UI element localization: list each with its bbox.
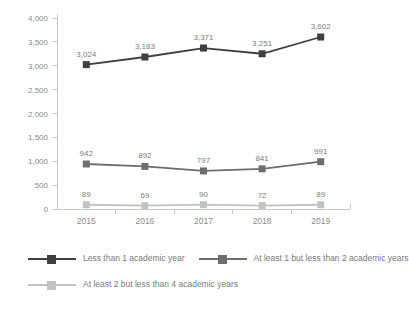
data-point-label: 797 bbox=[197, 156, 211, 165]
chart-plot-area: 05001,0001,5002,0002,5003,0003,5004,0002… bbox=[0, 0, 394, 246]
data-point-label: 89 bbox=[316, 190, 325, 199]
data-point-marker[interactable] bbox=[317, 158, 324, 165]
data-point-label: 3,183 bbox=[135, 42, 156, 51]
y-axis-tick-label: 0 bbox=[44, 205, 49, 214]
x-axis-tick-label: 2016 bbox=[135, 216, 154, 226]
data-point-marker[interactable] bbox=[200, 167, 207, 174]
data-point-label: 90 bbox=[199, 190, 208, 199]
data-point-marker[interactable] bbox=[200, 45, 207, 52]
y-axis-tick-label: 500 bbox=[35, 181, 49, 190]
data-point-marker[interactable] bbox=[259, 202, 266, 209]
data-point-label: 72 bbox=[258, 191, 267, 200]
data-point-marker[interactable] bbox=[141, 202, 148, 209]
x-axis-tick-label: 2018 bbox=[253, 216, 272, 226]
legend-label-series-1: Less than 1 academic year bbox=[83, 254, 185, 263]
data-point-marker[interactable] bbox=[141, 54, 148, 61]
y-axis-tick-label: 3,500 bbox=[28, 38, 49, 47]
y-axis-tick-label: 2,000 bbox=[28, 110, 49, 119]
data-point-label: 892 bbox=[138, 151, 152, 160]
data-point-marker[interactable] bbox=[317, 201, 324, 208]
data-point-label: 3,602 bbox=[311, 22, 332, 31]
data-point-marker[interactable] bbox=[317, 34, 324, 41]
series-3: 8969907289 bbox=[82, 190, 326, 210]
data-point-label: 942 bbox=[80, 149, 94, 158]
data-point-label: 3,371 bbox=[193, 33, 214, 42]
legend-item-series-3[interactable]: At least 2 but less than 4 academic year… bbox=[28, 279, 238, 291]
y-axis-tick-label: 3,000 bbox=[28, 62, 49, 71]
chart-legend: Less than 1 academic year At least 1 but… bbox=[0, 246, 394, 309]
legend-item-series-2[interactable]: At least 1 but less than 2 academic year… bbox=[199, 253, 409, 265]
data-point-marker[interactable] bbox=[83, 61, 90, 68]
x-axis-tick-label: 2019 bbox=[311, 216, 330, 226]
data-point-marker[interactable] bbox=[259, 50, 266, 57]
legend-swatch-icon-series-1 bbox=[28, 253, 76, 265]
data-point-marker[interactable] bbox=[200, 201, 207, 208]
data-point-label: 991 bbox=[314, 147, 328, 156]
data-point-label: 841 bbox=[255, 154, 269, 163]
legend-row-2: At least 2 but less than 4 academic year… bbox=[0, 272, 394, 298]
legend-marker-series-1 bbox=[47, 255, 56, 264]
x-axis-tick-label: 2015 bbox=[77, 216, 96, 226]
legend-swatch-icon-series-3 bbox=[28, 279, 76, 291]
data-point-marker[interactable] bbox=[259, 165, 266, 172]
data-point-label: 3,251 bbox=[252, 39, 273, 48]
y-axis-tick-label: 2,500 bbox=[28, 86, 49, 95]
legend-label-series-2: At least 1 but less than 2 academic year… bbox=[254, 254, 409, 263]
data-point-label: 89 bbox=[82, 190, 91, 199]
legend-item-series-1[interactable]: Less than 1 academic year bbox=[28, 253, 185, 265]
y-axis-tick-label: 4,000 bbox=[28, 14, 49, 23]
data-point-marker[interactable] bbox=[83, 201, 90, 208]
series-1: 3,0243,1833,3713,2513,602 bbox=[76, 22, 331, 68]
y-axis-tick-label: 1,000 bbox=[28, 157, 49, 166]
data-point-marker[interactable] bbox=[141, 163, 148, 170]
data-point-label: 69 bbox=[140, 191, 149, 200]
legend-marker-series-2 bbox=[218, 255, 227, 264]
legend-label-series-3: At least 2 but less than 4 academic year… bbox=[83, 280, 238, 289]
series-2: 942892797841991 bbox=[80, 147, 328, 175]
y-axis-tick-label: 1,500 bbox=[28, 133, 49, 142]
x-axis-tick-label: 2017 bbox=[194, 216, 213, 226]
legend-swatch-icon-series-2 bbox=[199, 253, 247, 265]
legend-row-1: Less than 1 academic year At least 1 but… bbox=[0, 246, 394, 272]
data-point-label: 3,024 bbox=[76, 50, 97, 59]
legend-marker-series-3 bbox=[47, 281, 56, 290]
data-point-marker[interactable] bbox=[83, 161, 90, 168]
